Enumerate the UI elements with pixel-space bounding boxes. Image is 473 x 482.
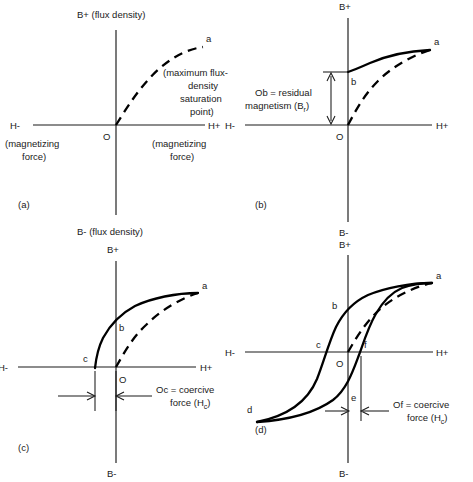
panel-a: B+ (flux density) B- (flux density) H- H… bbox=[0, 0, 236, 240]
coercive-note-line1-d: Of = coercive bbox=[393, 399, 449, 410]
point-f-label-d: f bbox=[364, 339, 367, 350]
coercive-note-line1-c: Oc = coercive bbox=[156, 384, 214, 395]
b-neg-label-b: B- bbox=[339, 227, 349, 238]
saturation-note-line1-a: (maximum flux- bbox=[163, 67, 228, 78]
initial-magnetization-curve-c bbox=[116, 293, 198, 367]
h-pos-label-b: H+ bbox=[436, 120, 449, 131]
point-a-label-a: a bbox=[206, 33, 212, 44]
point-c-label-c: c bbox=[83, 353, 88, 364]
saturation-note-line3-a: saturation bbox=[180, 93, 222, 104]
point-b-label-c: b bbox=[119, 322, 124, 333]
b-pos-label-a: B+ (flux density) bbox=[77, 9, 145, 20]
panel-c: B+ B- H- H+ O a b c Oc = coercive force … bbox=[0, 241, 236, 482]
b-neg-label-a: B- (flux density) bbox=[77, 226, 143, 237]
origin-label-d: O bbox=[336, 358, 343, 369]
h-neg-label-c: H- bbox=[0, 362, 8, 373]
b-pos-label-c: B+ bbox=[107, 244, 119, 255]
saturation-note-line2-a: density bbox=[188, 80, 218, 91]
point-a-label-b: a bbox=[434, 36, 440, 47]
panel-id-d: (d) bbox=[255, 424, 267, 435]
h-pos-desc-line2-a: force) bbox=[170, 151, 194, 162]
demagnetization-curve-b bbox=[348, 50, 430, 72]
b-pos-label-b: B+ bbox=[339, 1, 351, 12]
panel-d: B+ B- H- H+ O a b c d e f Of = coercive … bbox=[237, 241, 473, 482]
residual-note-line2-b: magnetism (Br) bbox=[245, 100, 309, 113]
panel-id-a: (a) bbox=[18, 199, 30, 210]
h-neg-label-a: H- bbox=[10, 120, 20, 131]
h-neg-label-b: H- bbox=[225, 120, 235, 131]
panel-b: B+ B- H- H+ O a b Ob = residual magnetis… bbox=[237, 0, 473, 240]
h-neg-label-d: H- bbox=[225, 347, 235, 358]
point-e-label-d: e bbox=[351, 392, 356, 403]
h-neg-desc-line1-a: (magnetizing bbox=[5, 138, 59, 149]
point-b-label-d: b bbox=[332, 300, 337, 311]
saturation-note-line4-a: point) bbox=[190, 106, 214, 117]
b-pos-label-d: B+ bbox=[339, 239, 351, 250]
b-neg-label-c: B- bbox=[107, 468, 117, 479]
point-a-label-d: a bbox=[436, 270, 442, 281]
h-pos-desc-line1-a: (magnetizing bbox=[152, 138, 206, 149]
h-pos-label-a: H+ bbox=[208, 120, 221, 131]
residual-note-line1-b: Ob = residual bbox=[255, 87, 312, 98]
point-d-label-d: d bbox=[247, 404, 252, 415]
point-c-label-d: c bbox=[316, 339, 321, 350]
panel-id-c: (c) bbox=[18, 442, 29, 453]
coercive-note-line2-c: force (Hc) bbox=[170, 397, 210, 410]
initial-magnetization-curve-d bbox=[348, 283, 432, 352]
h-pos-label-c: H+ bbox=[200, 362, 213, 373]
coercive-note-line2-d: force (Hc) bbox=[407, 412, 447, 425]
h-neg-desc-line2-a: force) bbox=[22, 151, 46, 162]
hysteresis-figure: B+ (flux density) B- (flux density) H- H… bbox=[0, 0, 473, 482]
point-b-label-b: b bbox=[351, 76, 356, 87]
b-neg-label-d: B- bbox=[339, 468, 349, 479]
panel-id-b: (b) bbox=[255, 199, 267, 210]
initial-magnetization-curve-b bbox=[348, 50, 430, 125]
origin-label-a: O bbox=[103, 131, 110, 142]
origin-label-b: O bbox=[336, 131, 343, 142]
point-a-label-c: a bbox=[202, 280, 208, 291]
demagnetization-curve-c bbox=[95, 293, 198, 368]
h-pos-label-d: H+ bbox=[436, 347, 449, 358]
origin-label-c: O bbox=[119, 374, 126, 385]
